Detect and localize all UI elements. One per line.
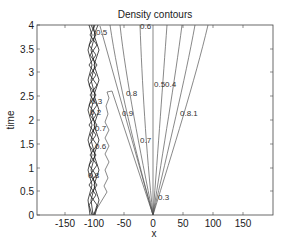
- x-tick-label: -150: [55, 218, 75, 229]
- contour-label: 0.7: [140, 136, 152, 145]
- contour-label: 0.9: [122, 109, 134, 118]
- y-tick-labels: 0 0.5 1 1.5 2 2.5 3 3.5 4: [20, 20, 34, 221]
- y-tick-label: 1: [28, 163, 34, 174]
- contour-label: 0.5: [96, 28, 108, 37]
- contour-label: 0.2: [90, 108, 102, 117]
- y-tick-label: 3: [28, 67, 34, 78]
- x-tick-label: 150: [235, 218, 252, 229]
- contour-label: 0.8: [126, 89, 138, 98]
- y-tick-label: 1.5: [20, 139, 34, 150]
- y-tick-label: 2.5: [20, 91, 34, 102]
- y-tick-label: 0: [28, 210, 34, 221]
- y-tick-label: 4: [28, 20, 34, 31]
- contour-label: 0.6: [95, 142, 107, 151]
- contour-label: 0.8.1: [180, 109, 198, 118]
- contour-label: 0.7: [95, 124, 107, 133]
- contour-label: 0.3: [158, 193, 170, 202]
- y-axis-label: time: [5, 110, 16, 129]
- x-tick-label: 100: [205, 218, 222, 229]
- y-tick-label: 3.5: [20, 44, 34, 55]
- x-tick-label: 50: [177, 218, 189, 229]
- contour-label: 0.50.4: [154, 80, 177, 89]
- x-axis-label: x: [152, 228, 157, 239]
- density-contour-chart: Density contours 0.5 0.6 0.8 0.50.4 0.3 …: [0, 0, 287, 249]
- contour-label: 0.8: [88, 171, 100, 180]
- x-tick-label: -100: [84, 218, 104, 229]
- contour-label: 0.6: [140, 22, 152, 31]
- y-tick-label: 0.5: [20, 186, 34, 197]
- chart-title: Density contours: [118, 9, 192, 20]
- y-tick-label: 2: [28, 115, 34, 126]
- contour-label: 0.3: [91, 97, 103, 106]
- x-tick-label: -50: [117, 218, 132, 229]
